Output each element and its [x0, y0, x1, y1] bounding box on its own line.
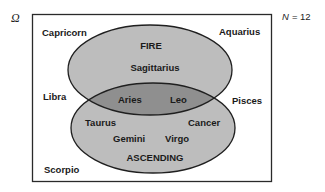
count-label: N — [282, 11, 289, 22]
set-title-ascending: ASCENDING — [126, 152, 183, 163]
label-scorpio: Scorpio — [44, 164, 80, 175]
sample-count: N= 12 — [282, 11, 311, 22]
label-virgo: Virgo — [165, 133, 189, 144]
label-gemini: Gemini — [113, 133, 145, 144]
venn-diagram: Ω N= 12 Capricorn Aquarius Libra Pisces … — [0, 0, 325, 192]
label-aquarius: Aquarius — [219, 26, 260, 37]
label-leo: Leo — [170, 94, 187, 105]
label-capricorn: Capricorn — [42, 27, 87, 38]
label-aries: Aries — [118, 94, 142, 105]
label-sagittarius: Sagittarius — [130, 62, 179, 73]
label-cancer: Cancer — [188, 117, 221, 128]
set-title-fire: FIRE — [140, 40, 162, 51]
label-libra: Libra — [43, 91, 67, 102]
universe-symbol: Ω — [11, 11, 20, 25]
label-taurus: Taurus — [85, 117, 116, 128]
count-value: = 12 — [292, 11, 311, 22]
label-pisces: Pisces — [232, 95, 262, 106]
